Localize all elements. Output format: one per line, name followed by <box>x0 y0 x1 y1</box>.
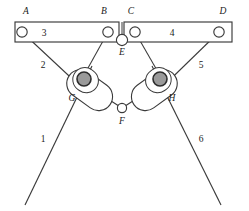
label-link-1: 1 <box>41 134 46 144</box>
label-joint-d: D <box>219 6 227 16</box>
label-link-2: 2 <box>41 60 46 70</box>
label-joint-h: H <box>168 93 177 103</box>
label-joint-g: G <box>69 93 76 103</box>
joint-d-circle <box>214 27 224 37</box>
slider-h-pivot <box>153 72 167 86</box>
slider-g-pivot <box>77 72 91 86</box>
label-joint-e: E <box>118 47 125 57</box>
joint-f-circle <box>117 103 126 112</box>
joint-c-circle <box>130 27 140 37</box>
label-joint-f: F <box>118 116 125 126</box>
label-joint-b: B <box>101 6 107 16</box>
linkage-diagram-figure: A B C D E F G H 1 2 3 4 5 6 <box>0 0 249 211</box>
label-link-5: 5 <box>199 60 204 70</box>
label-link-3: 3 <box>42 28 47 38</box>
joint-e-circle <box>116 34 127 45</box>
label-link-6: 6 <box>199 134 204 144</box>
linkage-diagram-svg: A B C D E F G H 1 2 3 4 5 6 <box>0 0 249 211</box>
joint-a-circle <box>17 27 27 37</box>
label-joint-c: C <box>128 6 135 16</box>
label-joint-a: A <box>22 6 29 16</box>
joint-b-circle <box>103 27 113 37</box>
label-link-4: 4 <box>170 28 175 38</box>
